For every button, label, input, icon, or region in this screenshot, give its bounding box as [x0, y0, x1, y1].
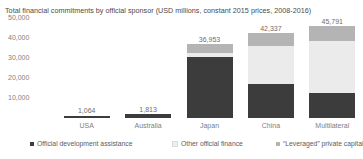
legend-label: Other official finance [181, 140, 243, 147]
bar-value-label: 42,337 [260, 25, 281, 32]
bar-stack [309, 26, 355, 118]
y-axis-tick-10000: 10,000 [8, 94, 52, 101]
y-axis-tick-40000: 40,000 [8, 34, 52, 41]
bar-segment-leveraged-private-capital [248, 33, 294, 45]
legend-swatch-icon [276, 142, 280, 146]
bar-value-label: 45,791 [322, 18, 343, 25]
bar-value-label: 1,064 [78, 107, 96, 114]
bar-stack [125, 114, 171, 118]
legend-label: “Leveraged” private capital [283, 140, 363, 147]
legend-item-1[interactable]: Official development assistance [30, 140, 132, 147]
bar-stack [187, 44, 233, 118]
y-axis-tick-30000: 30,000 [8, 54, 52, 61]
chart-legend: Official development assistanceOther off… [0, 140, 363, 154]
bar-segment-official-development-assistance [187, 57, 233, 118]
legend-label: Official development assistance [37, 140, 132, 147]
bar-stack [64, 116, 110, 118]
bar-segment-official-development-assistance [309, 93, 355, 118]
bar-usa[interactable]: 1,064 [64, 18, 110, 118]
bar-segment-other-official-finance [309, 41, 355, 93]
legend-swatch-icon [30, 142, 34, 146]
legend-item-3[interactable]: “Leveraged” private capital [276, 140, 363, 147]
bar-australia[interactable]: 1,813 [125, 18, 171, 118]
bar-segment-official-development-assistance [125, 114, 171, 118]
legend-swatch-icon [172, 141, 178, 147]
bar-value-label: 36,953 [199, 36, 220, 43]
bar-japan[interactable]: 36,953 [187, 18, 233, 118]
x-axis-label-usa: USA [56, 122, 118, 129]
bar-segment-leveraged-private-capital [309, 26, 355, 41]
bar-stack [248, 33, 294, 118]
bar-china[interactable]: 42,337 [248, 18, 294, 118]
bar-segment-leveraged-private-capital [187, 44, 233, 53]
plot-area: 50,000 40,000 30,000 20,000 10,000 1,064… [0, 18, 363, 120]
y-axis-tick-20000: 20,000 [8, 74, 52, 81]
bar-value-label: 1,813 [139, 106, 157, 113]
x-axis-label-australia: Australia [117, 122, 179, 129]
y-axis-tick-50000: 50,000 [8, 14, 52, 21]
x-axis-label-multilateral: Multilateral [301, 122, 363, 129]
x-axis-labels: USAAustraliaJapanChinaMultilateral [56, 122, 363, 136]
bar-segment-official-development-assistance [248, 84, 294, 118]
bar-group: 1,0641,81336,95342,33745,791 [56, 18, 363, 118]
bar-segment-other-official-finance [248, 46, 294, 84]
chart-container: Total financial commitments by official … [0, 0, 363, 159]
x-axis-label-china: China [240, 122, 302, 129]
legend-item-2[interactable]: Other official finance [172, 140, 243, 147]
bar-segment-official-development-assistance [64, 116, 110, 118]
bar-multilateral[interactable]: 45,791 [309, 18, 355, 118]
x-axis-label-japan: Japan [179, 122, 241, 129]
